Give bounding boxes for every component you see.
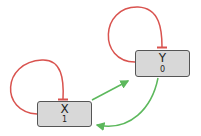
edge-y-to-x-activation	[97, 78, 158, 126]
edge-x-to-y-activation	[92, 81, 128, 100]
node-x[interactable]: X 1	[37, 101, 92, 127]
node-y-value: 0	[160, 65, 165, 74]
node-y-label: Y	[159, 52, 166, 64]
node-x-value: 1	[62, 115, 67, 124]
node-x-label: X	[60, 103, 68, 115]
node-y[interactable]: Y 0	[135, 50, 190, 77]
